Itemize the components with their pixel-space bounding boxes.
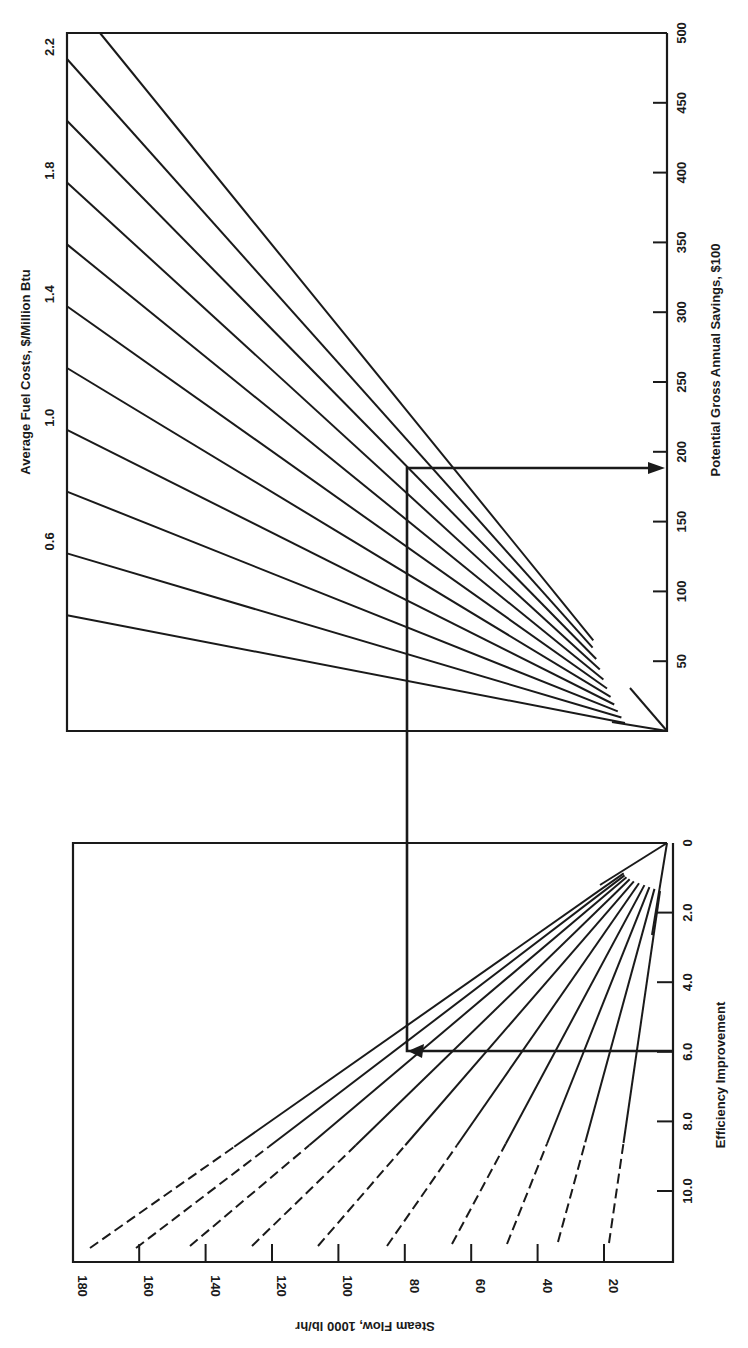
steam-flow-line [356,879,630,1145]
fuel-cost-line [67,492,618,712]
steam-flow-line-dashed [318,1145,405,1246]
steam-flow-panel: 02.04.06.08.010.020406080100120140160180 [73,839,695,1296]
fuel-cost-tick-label: 0.6 [42,532,57,550]
fuel-cost-line [67,244,603,679]
savings-axis-title: Potential Gross Annual Savings, $100 [708,244,723,477]
steam-flow-line [624,891,661,1143]
steam-flow-line [506,885,645,1144]
fuel-cost-line [67,121,596,659]
steam-flow-tick-label: 180 [75,1275,90,1297]
savings-tick-label: 100 [674,581,689,603]
fuel-cost-line [67,553,621,717]
savings-tick-label: 350 [674,232,689,254]
steam-flow-line [457,883,639,1145]
savings-tick-label: 500 [674,22,689,44]
panel-frame [67,33,667,731]
efficiency-tick-label: 0 [680,839,695,846]
steam-flow-line-dashed [609,1143,624,1243]
efficiency-tick-label: 8.0 [680,1112,695,1130]
steam-flow-line-dashed [558,1142,585,1242]
steam-flow-line-dashed [507,1144,547,1244]
steam-flow-line-dashed [387,1145,457,1246]
fuel-cost-line [67,183,600,670]
steam-flow-tick-label: 80 [407,1279,422,1293]
fuel-cost-axis-title: Average Fuel Costs, $/Million Btu [18,269,33,474]
fuel-cost-line [100,33,593,640]
fuel-cost-line [67,368,611,697]
savings-tick-label: 400 [674,162,689,184]
savings-tick-label: 250 [674,371,689,393]
steam-flow-line [234,873,623,1146]
steam-flow-tick-label: 60 [473,1279,488,1293]
efficiency-tick-label: 10.0 [680,1178,695,1203]
savings-tick-label: 200 [674,441,689,463]
steam-flow-tick-label: 40 [540,1279,555,1293]
nomograph-chart: 501001502002503003504004505000.61.01.41.… [0,0,748,1348]
steam-flow-line-dashed [452,1144,506,1244]
steam-flow-tick-label: 160 [141,1275,156,1297]
steam-flow-line [269,875,625,1146]
savings-tick-label: 150 [674,511,689,533]
steam-flow-tick-label: 120 [274,1275,289,1297]
fuel-cost-tick-label: 1.0 [42,409,57,427]
steam-flow-line [309,877,626,1145]
fuel-cost-line [67,430,614,705]
fan-boundary-line [630,688,667,731]
steam-flow-axis-title: Steam Flow, 1000 lb/hr [295,1319,435,1334]
fuel-cost-tick-label: 2.2 [42,38,57,56]
steam-flow-line-dashed [252,1145,356,1246]
fan-boundary-line [600,843,667,885]
efficiency-axis-title: Efficiency Improvement [713,1001,728,1148]
efficiency-tick-label: 4.0 [680,973,695,991]
steam-flow-tick-label: 20 [606,1279,621,1293]
fuel-cost-line [67,615,625,723]
fuel-cost-tick-label: 1.8 [42,162,57,180]
savings-tick-label: 300 [674,301,689,323]
arrow-right-icon [648,462,665,474]
efficiency-tick-label: 2.0 [680,904,695,922]
efficiency-tick-label: 6.0 [680,1043,695,1061]
steam-flow-tick-label: 100 [340,1275,355,1297]
steam-flow-line-dashed [90,1147,234,1248]
steam-flow-tick-label: 140 [208,1275,223,1297]
fuel-cost-tick-label: 1.4 [42,284,57,303]
fan-boundary-line [612,722,667,731]
fuel-cost-panel: 501001502002503003504004505000.61.01.41.… [42,22,689,731]
savings-tick-label: 50 [674,654,689,668]
steam-flow-line [547,887,649,1144]
savings-tick-label: 450 [674,92,689,114]
fuel-cost-line [67,59,593,648]
axis-labels: Average Fuel Costs, $/Million Btu Potent… [18,244,728,1334]
